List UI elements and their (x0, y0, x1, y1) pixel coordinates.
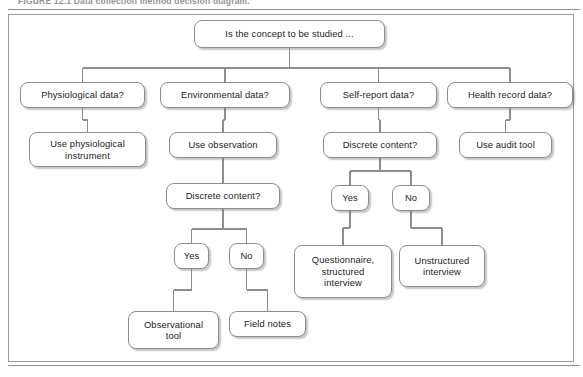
node-use-audit-tool: Use audit tool (459, 132, 552, 158)
node-field-notes: Field notes (229, 311, 306, 337)
figure-page: FIGURE 12.1 Data collection method decis… (0, 0, 583, 377)
node-label: Health record data? (452, 89, 568, 100)
node-root: Is the concept to be studied ... (194, 20, 385, 48)
node-label: Self-report data? (325, 89, 432, 100)
node-environmental-data: Environmental data? (160, 82, 290, 108)
node-unstructured-interview: Unstructured interview (399, 245, 485, 287)
bottom-rule (8, 365, 580, 366)
node-health-record-data: Health record data? (447, 82, 573, 108)
node-discrete-content-self-report: Discrete content? (323, 132, 437, 158)
node-label: Use physiological instrument (34, 138, 141, 161)
node-label: Discrete content? (328, 139, 432, 150)
node-self-report-no: No (392, 185, 430, 211)
node-label: No (234, 250, 259, 261)
node-label: Yes (179, 250, 204, 261)
node-label: Questionnaire, structured interview (299, 254, 387, 288)
node-label: Is the concept to be studied ... (199, 28, 380, 39)
node-label: No (397, 192, 425, 203)
node-label: Use audit tool (464, 139, 547, 150)
node-label: Observational tool (133, 319, 214, 342)
node-observation-yes: Yes (174, 243, 209, 269)
node-self-report-yes: Yes (331, 185, 369, 211)
node-label: Environmental data? (165, 89, 285, 100)
node-label: Unstructured interview (404, 255, 480, 278)
flowchart-canvas: Is the concept to be studied ...Physiolo… (0, 0, 583, 377)
node-label: Physiological data? (25, 89, 140, 100)
node-use-observation: Use observation (169, 132, 277, 158)
node-label: Field notes (234, 318, 301, 329)
node-use-physiological-instrument: Use physiological instrument (29, 132, 146, 167)
node-label: Discrete content? (171, 190, 275, 201)
node-observation-no: No (229, 243, 264, 269)
node-label: Use observation (174, 139, 272, 150)
node-self-report-data: Self-report data? (320, 82, 437, 108)
node-questionnaire-structured-interview: Questionnaire, structured interview (294, 245, 392, 298)
node-observational-tool: Observational tool (128, 311, 219, 349)
node-label: Yes (336, 192, 364, 203)
node-physiological-data: Physiological data? (20, 82, 145, 108)
node-discrete-content-observation: Discrete content? (166, 183, 280, 209)
